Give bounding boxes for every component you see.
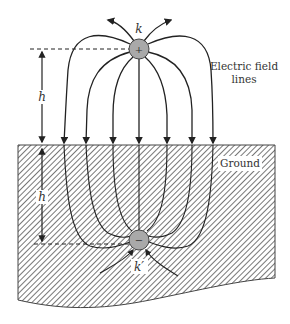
image-charge: − <box>129 230 149 250</box>
field-line <box>64 36 130 143</box>
field-line <box>113 57 133 143</box>
field-lines-label-line1: Electric field <box>210 60 279 72</box>
height-label-h: h <box>38 90 46 104</box>
field-line <box>148 36 213 143</box>
positive-charge: + <box>129 39 149 59</box>
image-charge-label-k-prime: k′ <box>134 260 144 274</box>
field-diagram: + k − k′ h h Electric field lines Ground <box>0 0 290 324</box>
field-line <box>148 52 192 143</box>
charge-label-k: k <box>135 22 142 36</box>
positive-sign: + <box>135 44 143 55</box>
field-lines-above <box>64 20 213 143</box>
ground-label: Ground <box>220 157 260 169</box>
negative-sign: − <box>135 235 143 246</box>
field-line <box>145 57 167 143</box>
depth-label-h: h <box>38 190 46 204</box>
field-lines-label-line2: lines <box>231 73 256 85</box>
field-line <box>86 52 130 143</box>
